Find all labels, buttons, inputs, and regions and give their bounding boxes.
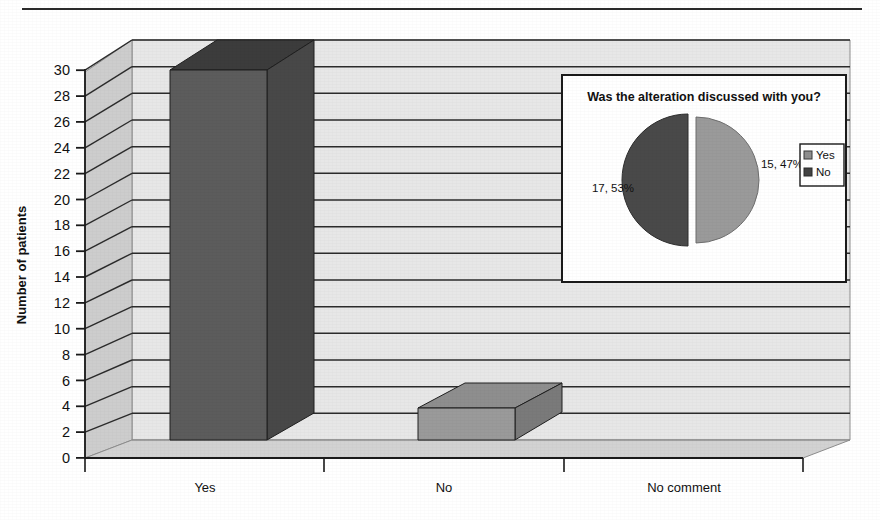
legend-swatch-no <box>804 168 812 176</box>
pie-data-label-yes: 15, 47% <box>761 158 803 170</box>
y-tick-label: 12 <box>54 295 70 311</box>
y-tick-label: 6 <box>62 373 70 389</box>
y-tick-label: 24 <box>54 140 70 156</box>
bar-front-face <box>170 70 267 440</box>
legend-label-yes: Yes <box>816 149 835 161</box>
y-axis-ticks <box>76 70 85 458</box>
y-tick-label: 22 <box>54 166 70 182</box>
plot-floor <box>85 440 850 458</box>
plot-left-wall <box>85 40 132 458</box>
y-tick-label: 16 <box>54 243 70 259</box>
x-tick-label-no: No <box>436 480 453 495</box>
bar-side-face <box>267 40 314 440</box>
inset-pie-panel: Was the alteration discussed with you? 1… <box>562 75 846 282</box>
y-tick-label: 0 <box>62 450 70 466</box>
y-tick-label: 2 <box>62 424 70 440</box>
y-tick-label: 28 <box>54 88 70 104</box>
y-tick-label: 4 <box>62 398 70 414</box>
y-tick-label: 10 <box>54 321 70 337</box>
bar-chart-3d: 0 2 4 6 8 10 12 14 16 18 20 22 24 26 28 … <box>0 0 880 520</box>
y-tick-label: 20 <box>54 192 70 208</box>
pie-legend: Yes No <box>800 144 844 186</box>
legend-label-no: No <box>816 166 831 178</box>
pie-data-label-no: 17, 53% <box>592 182 634 194</box>
y-tick-labels: 0 2 4 6 8 10 12 14 16 18 20 22 24 26 28 … <box>54 62 70 466</box>
y-axis-title: Number of patients <box>14 206 29 324</box>
x-axis-ticks <box>85 458 803 472</box>
x-tick-label-no-comment: No comment <box>647 480 721 495</box>
figure-container: 0 2 4 6 8 10 12 14 16 18 20 22 24 26 28 … <box>0 0 880 520</box>
bar-front-face <box>418 408 515 440</box>
x-tick-labels: Yes No No comment <box>194 480 721 495</box>
y-tick-label: 26 <box>54 114 70 130</box>
bar-yes <box>170 40 314 440</box>
x-tick-label-yes: Yes <box>194 480 216 495</box>
inset-pie-title: Was the alteration discussed with you? <box>587 90 821 104</box>
y-tick-label: 14 <box>54 269 70 285</box>
y-tick-label: 8 <box>62 347 70 363</box>
y-tick-label: 30 <box>54 62 70 78</box>
legend-swatch-yes <box>804 151 812 159</box>
y-tick-label: 18 <box>54 217 70 233</box>
